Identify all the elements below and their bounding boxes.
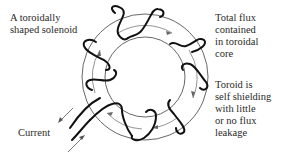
winding-5 bbox=[168, 100, 184, 134]
winding-1 bbox=[112, 6, 128, 39]
winding-4 bbox=[182, 63, 207, 89]
label-self-shielding: Toroid is self shielding with little or … bbox=[215, 79, 271, 139]
windings bbox=[84, 6, 208, 140]
winding-8 bbox=[84, 40, 110, 70]
core-inner-ring bbox=[105, 37, 185, 117]
label-total-flux: Total flux contained in toroidal core bbox=[215, 12, 258, 60]
winding-6 bbox=[132, 110, 156, 140]
flux-arrows bbox=[92, 25, 197, 129]
winding-bottom-left bbox=[90, 103, 132, 136]
winding-2 bbox=[128, 9, 164, 38]
label-solenoid: A toroidally shaped solenoid bbox=[10, 12, 77, 36]
arrow-in-icon bbox=[79, 135, 85, 140]
lead-upper bbox=[70, 98, 100, 128]
label-current: Current bbox=[18, 127, 50, 139]
core-outer-ring bbox=[82, 14, 208, 140]
winding-7 bbox=[86, 70, 116, 90]
current-leads bbox=[70, 98, 100, 140]
arrow-out-icon bbox=[58, 117, 63, 123]
